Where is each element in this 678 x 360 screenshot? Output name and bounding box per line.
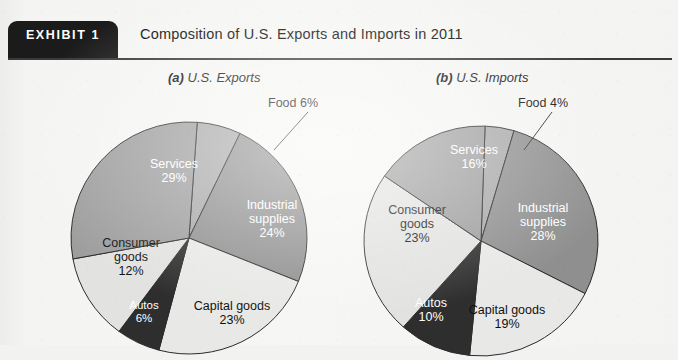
pie-slice-services <box>71 122 197 259</box>
chart-caption-exports-prefix: (a) <box>168 70 184 85</box>
pie-imports-svg <box>362 122 600 360</box>
exhibit-tab: EXHIBIT 1 <box>8 21 118 49</box>
leader-line-food-imports <box>512 110 560 152</box>
exhibit-tab-label: EXHIBIT 1 <box>8 21 118 49</box>
callout-food-imports: Food 4% <box>518 96 568 110</box>
chart-caption-exports: (a) U.S. Exports <box>168 70 260 85</box>
callout-food-exports: Food 6% <box>268 96 318 110</box>
exhibit-header: EXHIBIT 1 Composition of U.S. Exports an… <box>0 10 678 56</box>
pie-chart-exports <box>69 118 309 358</box>
leader-line-food-exports <box>264 110 314 152</box>
pie-chart-imports <box>362 122 600 360</box>
header-divider <box>8 58 672 60</box>
chart-caption-imports-text: U.S. Imports <box>453 70 529 85</box>
pie-exports-svg <box>69 118 309 358</box>
chart-caption-imports: (b) U.S. Imports <box>436 70 528 85</box>
chart-caption-imports-prefix: (b) <box>436 70 453 85</box>
chart-caption-exports-text: U.S. Exports <box>184 70 261 85</box>
page-title: Composition of U.S. Exports and Imports … <box>140 26 463 42</box>
